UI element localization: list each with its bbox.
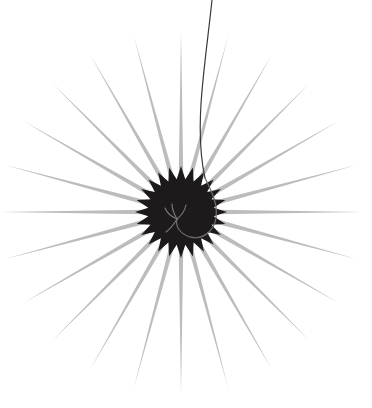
- starburst-figure: [0, 0, 372, 408]
- figure-root: [0, 0, 372, 408]
- dark-spiky-core: [135, 166, 227, 258]
